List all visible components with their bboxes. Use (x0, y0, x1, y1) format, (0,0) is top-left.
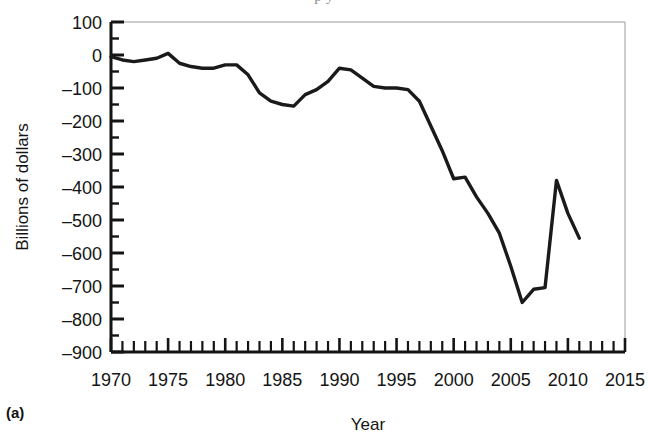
x-axis-tick-labels: 1970197519801985199019952000200520102015 (91, 370, 645, 390)
x-tick-label: 1990 (319, 370, 359, 390)
x-axis-title: Year (351, 415, 386, 434)
y-tick-label: 100 (72, 13, 102, 33)
y-tick-label: 0 (92, 46, 102, 66)
y-tick-label: –300 (62, 145, 102, 165)
x-axis-ticks (111, 338, 625, 352)
panel-label: (a) (6, 404, 24, 421)
x-tick-label: 2005 (491, 370, 531, 390)
x-tick-label: 1985 (262, 370, 302, 390)
y-tick-label: –200 (62, 112, 102, 132)
y-axis-ticks (111, 22, 124, 352)
y-axis-tick-labels: 1000–100–200–300–400–500–600–700–800–900 (62, 13, 102, 363)
x-tick-label: 1970 (91, 370, 131, 390)
y-tick-label: –900 (62, 343, 102, 363)
y-tick-label: –600 (62, 244, 102, 264)
line-chart: 1000–100–200–300–400–500–600–700–800–900… (0, 0, 648, 442)
y-tick-label: –800 (62, 310, 102, 330)
x-tick-label: 2015 (605, 370, 645, 390)
figure-panel-a: p y 1000–100–200–300–400–500–600–700–800… (0, 0, 648, 442)
y-tick-label: –500 (62, 211, 102, 231)
y-tick-label: –400 (62, 178, 102, 198)
x-tick-label: 1975 (148, 370, 188, 390)
y-tick-label: –700 (62, 277, 102, 297)
y-tick-label: –100 (62, 79, 102, 99)
y-axis-title: Billions of dollars (13, 123, 32, 251)
data-series-line (111, 53, 579, 302)
x-tick-label: 1995 (377, 370, 417, 390)
x-tick-label: 2010 (548, 370, 588, 390)
x-tick-label: 2000 (434, 370, 474, 390)
plot-frame (111, 22, 625, 352)
x-tick-label: 1980 (205, 370, 245, 390)
